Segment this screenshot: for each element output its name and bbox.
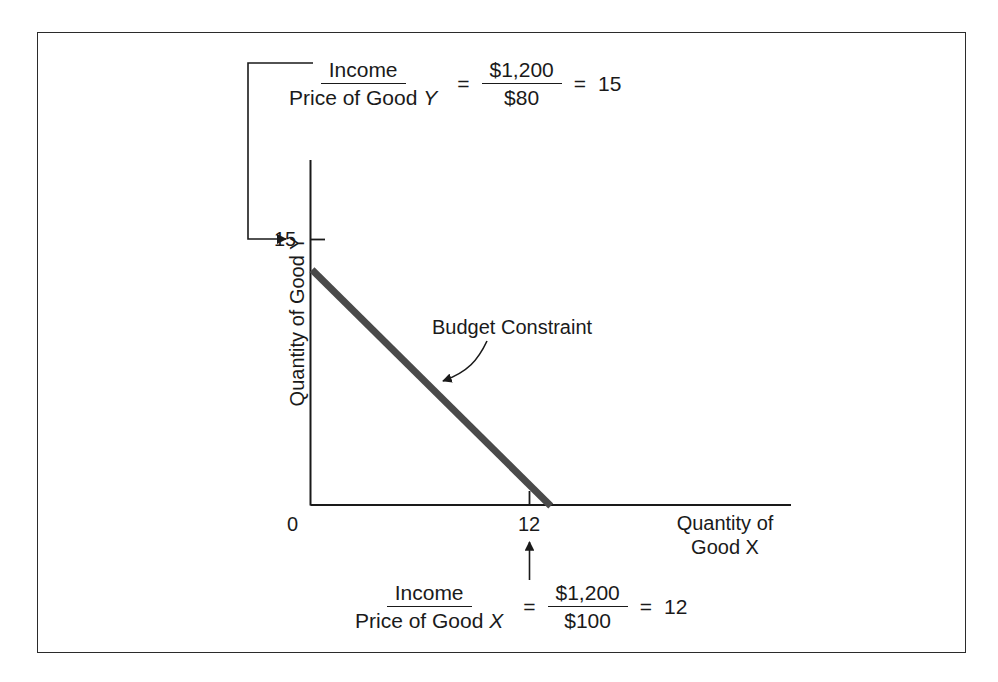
formula-income-over-price-y: Income Price of Good Y = $1,200 $80 = 15	[279, 58, 621, 109]
formula-top-denominator-variable: Y	[423, 86, 437, 109]
figure-canvas: Income Price of Good Y = $1,200 $80 = 15…	[0, 0, 998, 682]
formula-bottom-numerator: Income	[387, 581, 472, 607]
formula-bottom-fraction-left: Income Price of Good X	[345, 581, 513, 632]
budget-constraint-label: Budget Constraint	[432, 316, 592, 339]
x-axis-title: Quantity of Good X	[660, 512, 790, 559]
y-axis-title: Quantity of Good Y	[286, 222, 309, 422]
formula-top-denominator: Price of Good Y	[281, 84, 445, 110]
formula-top-value-denominator: $80	[496, 84, 547, 110]
axis-origin-label: 0	[287, 513, 298, 536]
formula-top-result: 15	[596, 72, 621, 96]
formula-bottom-result: 12	[662, 595, 687, 619]
figure-border	[37, 32, 966, 653]
formula-top-equals-1: =	[447, 72, 479, 96]
formula-bottom-equals-1: =	[513, 595, 545, 619]
x-axis-title-line-2: Good X	[691, 536, 759, 558]
formula-income-over-price-x: Income Price of Good X = $1,200 $100 = 1…	[345, 581, 687, 632]
formula-bottom-value-numerator: $1,200	[548, 581, 628, 607]
formula-bottom-equals-2: =	[630, 595, 662, 619]
formula-top-value-numerator: $1,200	[482, 58, 562, 84]
formula-top-denominator-text: Price of Good	[289, 86, 423, 109]
formula-top-fraction-left: Income Price of Good Y	[279, 58, 447, 109]
x-axis-title-line-1: Quantity of	[677, 512, 774, 534]
y-axis-title-text: Quantity of Good Y	[286, 237, 308, 407]
formula-bottom-fraction-right: $1,200 $100	[546, 581, 630, 632]
formula-top-numerator: Income	[321, 58, 406, 84]
formula-bottom-denominator-variable: X	[489, 609, 503, 632]
formula-bottom-denominator-text: Price of Good	[355, 609, 489, 632]
formula-top-fraction-right: $1,200 $80	[480, 58, 564, 109]
formula-bottom-denominator: Price of Good X	[347, 607, 511, 633]
formula-bottom-value-denominator: $100	[556, 607, 619, 633]
formula-top-equals-2: =	[564, 72, 596, 96]
x-axis-tick-label-12: 12	[518, 513, 540, 536]
